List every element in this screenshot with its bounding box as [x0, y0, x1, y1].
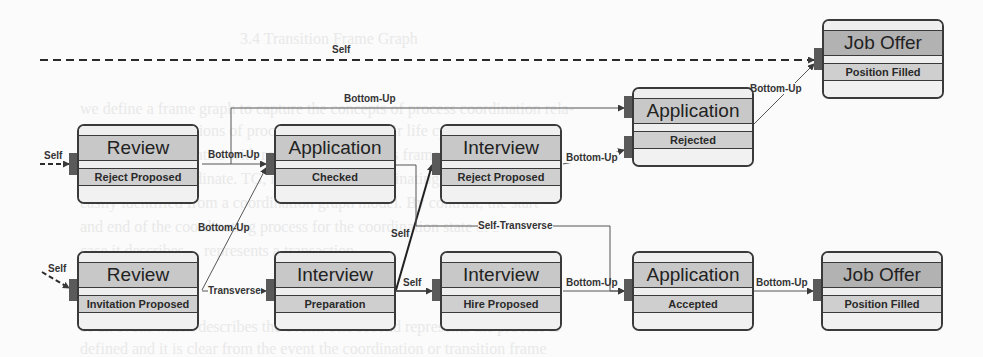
node-port [624, 136, 632, 158]
node-port [266, 279, 274, 301]
node-port [266, 153, 274, 175]
node-interview-hire-proposed[interactable]: Interview Hire Proposed [440, 251, 562, 331]
edge-label-bottom-up: Bottom-Up [756, 277, 808, 288]
edge-label-self-top: Self [332, 44, 350, 55]
node-review-reject-proposed[interactable]: Review Reject Proposed [77, 124, 199, 204]
node-title: Application [276, 136, 394, 161]
edge-label-self: Self [391, 228, 409, 239]
node-state: Checked [276, 169, 394, 186]
edge-label-bottom-up: Bottom-Up [208, 149, 260, 160]
node-title: Job Offer [824, 31, 942, 56]
node-job-offer-position-filled-top[interactable]: Job Offer Position Filled [822, 19, 944, 99]
edge-label-self-review-reject: Self [44, 150, 62, 161]
node-title: Review [79, 136, 197, 161]
node-port [432, 279, 440, 301]
edge-label-bottom-up: Bottom-Up [198, 222, 250, 233]
node-interview-reject-proposed[interactable]: Interview Reject Proposed [440, 124, 562, 204]
node-port [814, 48, 822, 70]
node-application-checked[interactable]: Application Checked [274, 124, 396, 204]
node-title: Interview [442, 136, 560, 161]
node-port [624, 279, 632, 301]
node-port [69, 279, 77, 301]
node-application-rejected[interactable]: Application Rejected [632, 87, 754, 167]
node-title: Job Offer [823, 263, 941, 288]
edge-label-self-transverse: Self-Transverse [478, 220, 553, 231]
node-state: Accepted [634, 296, 752, 313]
node-title: Interview [276, 263, 394, 288]
node-state: Position Filled [823, 296, 941, 313]
node-job-offer-position-filled-bottom[interactable]: Job Offer Position Filled [821, 251, 943, 331]
node-state: Preparation [276, 296, 394, 313]
node-title: Review [79, 263, 197, 288]
edge-label-self: Self [403, 277, 421, 288]
node-state: Reject Proposed [79, 169, 197, 186]
node-port [432, 153, 440, 175]
edge-label-bottom-up: Bottom-Up [750, 83, 802, 94]
edge-label-bottom-up: Bottom-Up [344, 93, 396, 104]
edge-label-bottom-up: Bottom-Up [566, 277, 618, 288]
edge-label-transverse: Transverse [208, 285, 261, 296]
edge-label-self-review-invitation: Self [48, 263, 66, 274]
node-port [624, 96, 632, 118]
node-port [69, 153, 77, 175]
node-title: Application [634, 99, 752, 124]
node-title: Interview [442, 263, 560, 288]
node-state: Reject Proposed [442, 169, 560, 186]
node-state: Position Filled [824, 64, 942, 81]
node-review-invitation-proposed[interactable]: Review Invitation Proposed [77, 251, 199, 331]
edge-self-review-invitation [42, 272, 69, 288]
node-state: Hire Proposed [442, 296, 560, 313]
node-interview-preparation[interactable]: Interview Preparation [274, 251, 396, 331]
node-port [813, 279, 821, 301]
node-title: Application [634, 263, 752, 288]
node-application-accepted[interactable]: Application Accepted [632, 251, 754, 331]
edge-label-bottom-up: Bottom-Up [566, 152, 618, 163]
node-state: Rejected [634, 132, 752, 149]
edge-app-rejected-to-joboffer [753, 64, 814, 125]
node-state: Invitation Proposed [79, 296, 197, 313]
